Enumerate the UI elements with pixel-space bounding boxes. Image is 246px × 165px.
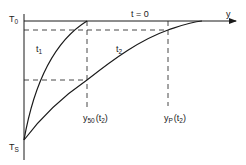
label-y50-t2: y50(t2) <box>83 113 108 124</box>
label-ts-temperature: TS <box>9 142 20 153</box>
curve-t1 <box>24 21 87 140</box>
label-t0-temperature: T0 <box>9 14 19 25</box>
label-t-zero: t = 0 <box>131 9 149 19</box>
label-t2: t2 <box>116 44 123 55</box>
label-y-axis: y <box>226 9 231 19</box>
label-t1: t1 <box>36 44 43 55</box>
temperature-profile-diagram: T0 TS y t = 0 t1 t2 y50(t2) yP(t2) <box>0 0 246 165</box>
label-yp-t2: yP(t2) <box>164 113 186 124</box>
